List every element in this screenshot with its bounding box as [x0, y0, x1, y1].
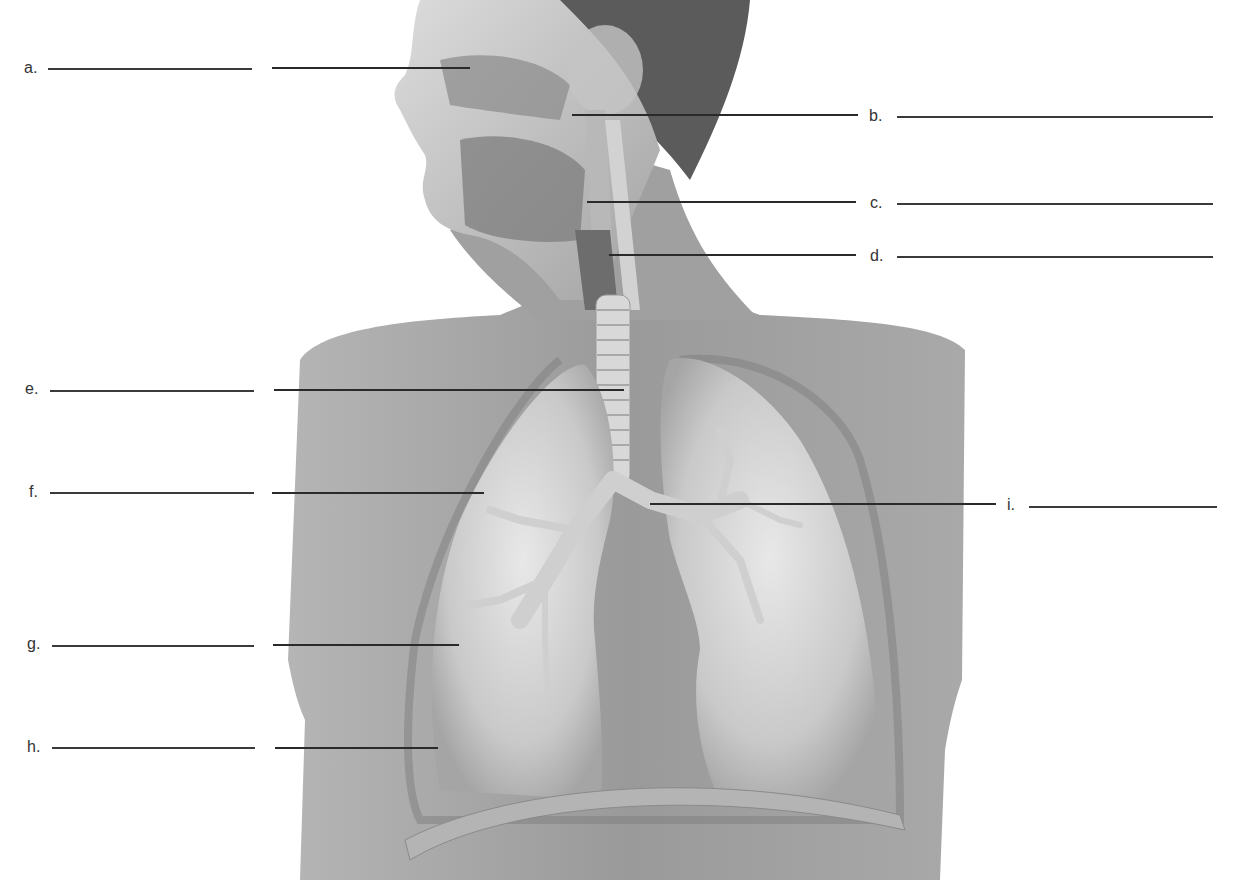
leader-line-f [272, 492, 484, 494]
answer-blank-c[interactable] [897, 203, 1213, 205]
label-f: f. [29, 484, 38, 500]
label-h: h. [27, 739, 40, 755]
label-e: e. [25, 381, 38, 397]
label-g: g. [27, 636, 40, 652]
leader-line-d [609, 254, 856, 256]
respiratory-diagram: a. b. c. d. e. f. g. h. i. [0, 0, 1233, 885]
anatomy-illustration [0, 0, 1233, 885]
answer-blank-a[interactable] [48, 68, 252, 70]
ear [567, 25, 643, 115]
leader-line-i [650, 503, 996, 505]
leader-line-b [572, 114, 858, 116]
answer-blank-e[interactable] [50, 390, 254, 392]
leader-line-a [272, 67, 470, 69]
answer-blank-g[interactable] [52, 645, 254, 647]
label-c: c. [870, 195, 882, 211]
leader-line-h [275, 747, 438, 749]
answer-blank-f[interactable] [50, 492, 254, 494]
answer-blank-b[interactable] [897, 116, 1213, 118]
head [395, 0, 660, 310]
answer-blank-h[interactable] [52, 747, 255, 749]
label-d: d. [870, 248, 883, 264]
label-i: i. [1007, 497, 1015, 513]
answer-blank-i[interactable] [1029, 506, 1217, 508]
leader-line-c [587, 201, 856, 203]
label-a: a. [24, 60, 37, 76]
label-b: b. [869, 108, 882, 124]
leader-line-g [273, 644, 459, 646]
answer-blank-d[interactable] [897, 256, 1213, 258]
leader-line-e [274, 389, 624, 391]
